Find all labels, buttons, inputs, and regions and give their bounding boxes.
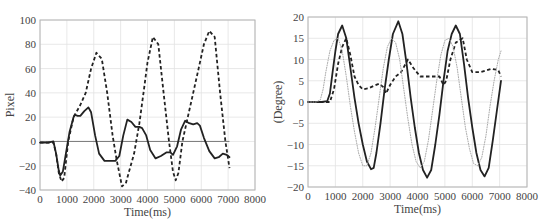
y-axis-label: Pixel	[3, 92, 17, 117]
y-tick-labels: −20−15−10−505101520	[287, 11, 305, 193]
x-tick-label: 2000	[352, 190, 375, 202]
figure: 010002000300040005000600070008000−40−200…	[0, 0, 548, 221]
y-tick-label: 0	[31, 135, 37, 147]
x-axis-label: Time(ms)	[394, 202, 441, 216]
y-axis-label: (Degree)	[271, 81, 285, 124]
grid	[308, 17, 527, 187]
right-chart-degree: 010002000300040005000600070008000−20−15−…	[271, 11, 539, 216]
y-tick-label: −5	[292, 117, 304, 129]
y-tick-label: 5	[299, 75, 305, 87]
y-tick-label: 100	[20, 14, 37, 26]
grid	[40, 20, 255, 190]
x-tick-label: 5000	[434, 190, 457, 202]
x-tick-label: 4000	[407, 190, 430, 202]
y-tick-label: −15	[287, 160, 305, 172]
y-tick-label: 60	[25, 63, 37, 75]
left-chart-pixel: 010002000300040005000600070008000−40−200…	[3, 14, 267, 219]
y-tick-label: −20	[287, 181, 305, 193]
x-tick-label: 1000	[56, 193, 79, 205]
x-tick-label: 3000	[379, 190, 402, 202]
x-tick-labels: 010002000300040005000600070008000	[305, 190, 538, 202]
x-tick-label: 0	[37, 193, 43, 205]
x-tick-label: 0	[305, 190, 311, 202]
y-tick-labels: −40−20020406080100	[19, 14, 37, 196]
x-tick-label: 3000	[110, 193, 133, 205]
y-tick-label: −40	[19, 184, 37, 196]
x-tick-label: 5000	[163, 193, 186, 205]
x-tick-label: 6000	[461, 190, 484, 202]
x-tick-label: 2000	[83, 193, 106, 205]
x-tick-labels: 010002000300040005000600070008000	[37, 193, 266, 205]
x-tick-label: 6000	[190, 193, 213, 205]
y-tick-label: 10	[293, 54, 305, 66]
x-tick-label: 8000	[516, 190, 539, 202]
y-tick-label: 40	[25, 87, 37, 99]
x-tick-label: 1000	[324, 190, 347, 202]
x-tick-label: 8000	[244, 193, 267, 205]
y-tick-label: −10	[287, 139, 305, 151]
x-tick-label: 4000	[137, 193, 160, 205]
y-tick-label: 20	[293, 11, 305, 23]
y-tick-label: 0	[299, 96, 305, 108]
y-tick-label: 15	[293, 32, 305, 44]
x-tick-label: 7000	[217, 193, 240, 205]
x-tick-label: 7000	[489, 190, 512, 202]
y-tick-label: 20	[25, 111, 37, 123]
y-tick-label: 80	[25, 38, 37, 50]
x-axis-label: Time(ms)	[124, 205, 171, 219]
y-tick-label: −20	[19, 160, 37, 172]
